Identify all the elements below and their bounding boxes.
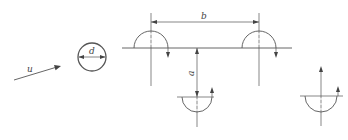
rotation-arrow-icon: [210, 87, 214, 93]
arrowhead-icon: [79, 55, 85, 59]
rotation-arrow-icon: [336, 86, 340, 92]
arrowhead-icon: [195, 48, 199, 54]
cylinder: d: [78, 43, 106, 71]
rotation-arrow-icon: [274, 52, 278, 58]
arrowhead-icon: [253, 20, 259, 24]
flow-arrow: u: [14, 64, 61, 80]
rotation-arrow-icon: [166, 52, 170, 58]
dimension-b: b: [151, 11, 259, 24]
spacing-b-label: b: [201, 11, 207, 21]
arrowhead-icon: [54, 65, 61, 70]
flow-velocity-label: u: [27, 64, 33, 74]
arrowhead-icon: [151, 20, 157, 24]
diagram-canvas: u d b a: [0, 0, 348, 140]
half-cylinder-upper-right: [242, 13, 278, 86]
diameter-label: d: [89, 46, 95, 56]
axis-arrow-up-icon: [319, 66, 323, 72]
dimension-a: a: [186, 48, 199, 97]
half-cylinder-lower-middle: [177, 87, 214, 127]
half-cylinder-lower-right: [300, 66, 343, 126]
arrowhead-icon: [100, 55, 106, 59]
arrowhead-icon: [195, 91, 199, 97]
half-cylinder-upper-left: [134, 13, 170, 86]
spacing-a-label: a: [186, 71, 196, 76]
